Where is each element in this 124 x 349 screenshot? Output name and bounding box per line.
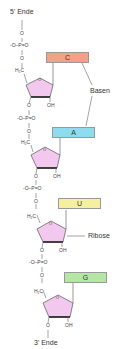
ring-oxygen: O — [38, 78, 41, 82]
oxygen: O — [20, 31, 24, 36]
hydroxyl-label: OH — [59, 248, 67, 253]
oxygen: O — [27, 129, 31, 134]
base-box-c: C — [46, 52, 89, 63]
base-box-u: U — [58, 198, 101, 209]
oxygen: O — [27, 103, 31, 108]
h2c-label: H₂C — [15, 68, 24, 73]
three-prime-end-label: 3' Ende — [34, 339, 58, 346]
five-prime-end-label: 5' Ende — [10, 8, 34, 15]
base-box-g: G — [64, 272, 107, 283]
ring-oxygen: O — [43, 148, 46, 152]
phosphate-group: -O–P=O — [23, 186, 42, 191]
oxygen: O — [46, 323, 50, 328]
oxygen: O — [40, 248, 44, 253]
oxygen: O — [34, 199, 38, 204]
phosphate-group: -O–P=O — [10, 43, 29, 48]
phosphate-group: -O–P=O — [17, 116, 36, 121]
oxygen: O — [34, 174, 38, 179]
ring-oxygen: O — [49, 222, 52, 226]
h2c-label: H₂C — [21, 140, 30, 145]
oxygen: O — [40, 273, 44, 278]
ribose-label: Ribose — [88, 232, 110, 239]
hydroxyl-label: OH — [65, 323, 73, 328]
h2c-label: H₂C — [34, 289, 43, 294]
oxygen: O — [20, 56, 24, 61]
phosphate-group: -O–P=O — [29, 260, 48, 265]
ring-oxygen: O — [56, 296, 59, 300]
hydroxyl-label: OH — [47, 103, 55, 108]
bases-label: Basen — [90, 87, 110, 94]
hydroxyl-label: OH — [53, 174, 61, 179]
base-box-a: A — [52, 127, 95, 138]
h2c-label: H₂C — [27, 214, 36, 219]
